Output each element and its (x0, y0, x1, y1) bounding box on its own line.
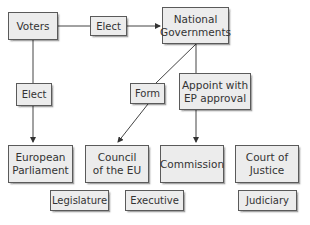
branch-judiciary: Judiciary (238, 190, 297, 211)
node-court-of-justice: Court of Justice (235, 145, 299, 183)
branch-legislature: Legislature (50, 190, 109, 211)
edge-label-elect-ng-text: Elect (96, 20, 121, 33)
node-commission-text: Commission (160, 158, 224, 171)
node-council-text: Council of the EU (92, 151, 142, 177)
node-council: Council of the EU (85, 145, 149, 183)
branch-executive: Executive (125, 190, 184, 211)
node-national-governments-text: National Governments (160, 13, 231, 39)
edge-label-form-text: Form (135, 87, 160, 100)
edge-label-appoint-text: Appoint with EP approval (180, 79, 250, 105)
edge-label-appoint: Appoint with EP approval (179, 73, 251, 110)
node-commission: Commission (160, 145, 224, 183)
branch-executive-text: Executive (130, 194, 179, 207)
node-voters-text: Voters (16, 20, 49, 33)
node-court-of-justice-text: Court of Justice (242, 151, 292, 177)
edge-label-elect-ng: Elect (90, 16, 127, 36)
branch-judiciary-text: Judiciary (246, 194, 289, 207)
node-european-parliament: European Parliament (8, 145, 73, 183)
node-european-parliament-text: European Parliament (9, 151, 72, 177)
branch-legislature-text: Legislature (52, 194, 107, 207)
edge-label-elect-ep-text: Elect (22, 88, 47, 101)
node-national-governments: National Governments (162, 7, 229, 44)
edge-label-form: Form (130, 83, 165, 104)
node-voters: Voters (8, 12, 58, 40)
edge-label-elect-ep: Elect (16, 83, 52, 106)
eu-institutions-diagram: Voters Elect National Governments Elect … (0, 0, 310, 225)
